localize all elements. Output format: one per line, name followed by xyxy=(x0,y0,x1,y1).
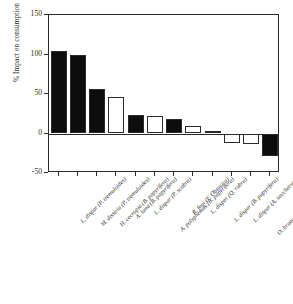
x-axis-tick-mark xyxy=(135,172,136,176)
bar xyxy=(108,97,124,133)
bar xyxy=(147,116,163,133)
x-axis-tick-mark xyxy=(77,172,78,176)
bar xyxy=(205,131,221,133)
bar xyxy=(262,134,278,157)
y-axis-tick-label: 50 xyxy=(18,89,42,97)
bar xyxy=(51,51,67,133)
y-axis-tick-mark xyxy=(44,172,48,173)
x-axis-tick-mark xyxy=(192,172,193,176)
y-axis-tick-label: -50 xyxy=(18,168,42,176)
x-axis-tick-mark xyxy=(250,172,251,176)
x-axis-tick-mark xyxy=(96,172,97,176)
x-axis-tick-mark xyxy=(154,172,155,176)
y-axis-tick-label: 150 xyxy=(18,10,42,18)
x-axis-tick-label: L. dispar (P. tremuloides) xyxy=(79,176,127,224)
bar xyxy=(243,134,259,144)
bar xyxy=(89,89,105,133)
plot-area xyxy=(48,14,279,172)
y-axis-tick-label: 0 xyxy=(18,129,42,137)
x-axis-tick-mark xyxy=(212,172,213,176)
y-axis-tick-label: 100 xyxy=(18,50,42,58)
bar xyxy=(185,126,201,133)
bar xyxy=(128,115,144,134)
x-axis-tick-mark xyxy=(58,172,59,176)
bar xyxy=(70,55,86,133)
figure-container: % Impact on consumption 150100500-50 L. … xyxy=(0,0,293,304)
x-axis-tick-mark xyxy=(115,172,116,176)
bar xyxy=(224,134,240,143)
bar xyxy=(166,119,182,133)
x-axis-tick-mark xyxy=(269,172,270,176)
